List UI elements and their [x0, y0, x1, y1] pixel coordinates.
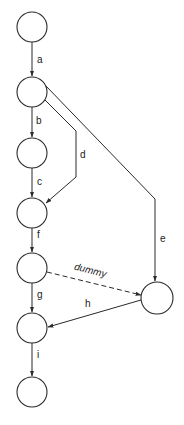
node-5 — [17, 253, 47, 283]
node-8 — [141, 282, 173, 314]
edge-d — [45, 100, 76, 203]
edge-label-c: c — [37, 176, 42, 187]
edge-label-e: e — [160, 233, 166, 244]
node-7 — [17, 377, 47, 407]
edge-label-dummy: dummy — [73, 261, 108, 280]
edge-label-a: a — [37, 54, 43, 65]
edge-label-i: i — [37, 349, 39, 360]
edge-h — [48, 300, 141, 327]
network-diagram: a b c d e f dummy g h i — [0, 0, 184, 425]
edge-label-f: f — [37, 229, 40, 240]
node-2 — [17, 77, 47, 107]
node-1 — [17, 12, 47, 42]
edge-e — [46, 86, 155, 281]
node-3 — [17, 138, 47, 168]
node-4 — [17, 198, 47, 228]
edge-label-h: h — [85, 298, 91, 309]
edge-label-d: d — [80, 149, 86, 160]
edge-label-g: g — [37, 289, 43, 300]
node-6 — [17, 313, 47, 343]
edge-label-b: b — [36, 115, 42, 126]
